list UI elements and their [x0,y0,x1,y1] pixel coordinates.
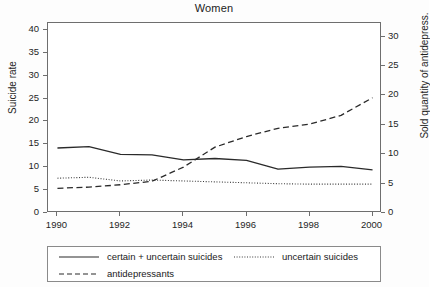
y-axis-left-tick-30: 30 [21,69,39,80]
y-axis-left-tick-0: 0 [21,206,39,217]
y-axis-left-tick-10: 10 [21,160,39,171]
plot-area [47,22,381,212]
axis-tick-mark [381,65,385,66]
axis-tick-mark [381,124,385,125]
y-axis-right-tick-5: 5 [388,177,408,188]
legend-entry-certain-uncertain-suicides: certain + uncertain suicides [58,248,222,265]
axis-tick-mark [56,212,57,216]
axis-tick-mark [43,143,47,144]
axis-tick-mark [372,212,373,216]
x-axis-tick-1990: 1990 [36,219,76,230]
x-axis-tick-1994: 1994 [162,219,202,230]
plot-series-svg [48,23,382,213]
y-axis-right-tick-20: 20 [388,88,408,99]
legend-label-certain-uncertain-suicides: certain + uncertain suicides [107,251,222,262]
y-axis-left-tick-35: 35 [21,46,39,57]
axis-tick-mark [309,212,310,216]
y-axis-right-tick-0: 0 [388,206,408,217]
legend-row-2: antidepressants [48,265,380,282]
y-axis-left-title: Suicide rate [7,33,18,143]
axis-tick-mark [43,75,47,76]
axis-tick-mark [381,36,385,37]
axis-tick-mark [43,212,47,213]
x-axis-tick-1996: 1996 [226,219,266,230]
legend-row-1: certain + uncertain suicides uncertain s… [48,248,380,265]
legend-entry-antidepressants: antidepressants [58,265,174,282]
legend-label-antidepressants: antidepressants [107,268,174,279]
legend-entry-uncertain-suicides: uncertain suicides [233,248,358,265]
chart-legend: certain + uncertain suicides uncertain s… [47,246,381,282]
y-axis-left-tick-15: 15 [21,137,39,148]
y-axis-right-tick-30: 30 [388,30,408,41]
y-axis-left-tick-20: 20 [21,114,39,125]
axis-tick-mark [119,212,120,216]
chart-title: Women [47,2,381,14]
axis-tick-mark [182,212,183,216]
legend-label-uncertain-suicides: uncertain suicides [282,251,358,262]
series-line-certain-uncertain-suicides [57,147,372,170]
y-axis-left-tick-40: 40 [21,23,39,34]
legend-key-dotted-icon [233,252,275,262]
axis-tick-mark [43,166,47,167]
y-axis-left-tick-25: 25 [21,92,39,103]
axis-tick-mark [381,212,385,213]
x-axis-tick-1998: 1998 [289,219,329,230]
y-axis-right-tick-25: 25 [388,59,408,70]
y-axis-right-title: Sold quantity of antidepress. [419,1,430,151]
axis-tick-mark [246,212,247,216]
series-line-uncertain-suicides [57,177,372,184]
axis-tick-mark [381,94,385,95]
axis-tick-mark [43,29,47,30]
y-axis-left-tick-5: 5 [21,183,39,194]
axis-tick-mark [43,98,47,99]
legend-key-solid-icon [58,252,100,262]
legend-key-dashed-icon [58,269,100,279]
series-line-antidepressants [57,98,372,189]
axis-tick-mark [43,52,47,53]
x-axis-tick-2000: 2000 [352,219,392,230]
axis-tick-mark [43,189,47,190]
y-axis-right-tick-10: 10 [388,147,408,158]
axis-tick-mark [381,183,385,184]
x-axis-tick-1992: 1992 [99,219,139,230]
axis-tick-mark [381,153,385,154]
y-axis-right-tick-15: 15 [388,118,408,129]
axis-tick-mark [43,120,47,121]
